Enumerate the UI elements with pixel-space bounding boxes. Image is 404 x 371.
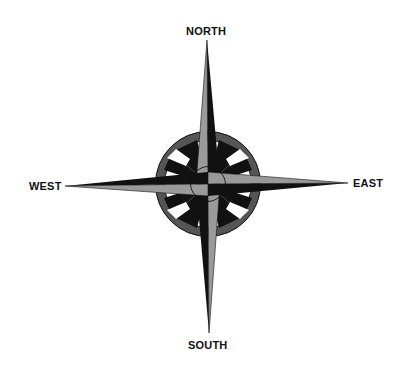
south-arm [196, 184, 220, 333]
west-arm [65, 172, 208, 196]
compass-rose-icon [0, 0, 404, 371]
east-arm [208, 172, 348, 196]
north-arm [196, 40, 220, 184]
